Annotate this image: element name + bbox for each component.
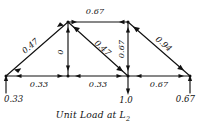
top-chord-arrow-right-icon bbox=[119, 20, 125, 24]
truss-diagram: 0.67 0.47 0 0.47 0.67 0.94 0.33 0.33 0.6… bbox=[0, 0, 198, 124]
bottom-left-label: 0.33 bbox=[30, 79, 49, 89]
right-vertical-arrow-bottom-icon bbox=[126, 66, 130, 72]
bottom-right-label: 0.67 bbox=[150, 79, 169, 89]
node-u2 bbox=[127, 21, 130, 24]
bottom-left-arrow-start-icon bbox=[16, 74, 22, 78]
left-diagonal-line bbox=[6, 22, 68, 76]
left-diagonal-arrow-lower-icon bbox=[14, 68, 21, 73]
bottom-mid-label: 0.33 bbox=[89, 79, 108, 89]
right-diagonal-label: 0.94 bbox=[154, 34, 175, 54]
node-u1 bbox=[67, 21, 70, 24]
figure-caption-text: Unit Load at L bbox=[56, 109, 126, 120]
bottom-mid-arrow-start-icon bbox=[75, 74, 81, 78]
center-vertical-arrow-bottom-icon bbox=[66, 66, 70, 72]
mid-diagonal-label: 0.47 bbox=[93, 38, 114, 58]
truss-diagram-canvas: 0.67 0.47 0 0.47 0.67 0.94 0.33 0.33 0.6… bbox=[0, 0, 198, 124]
figure-caption: Unit Load at L2 bbox=[56, 109, 130, 123]
bottom-right-arrow-end-icon bbox=[179, 74, 185, 78]
right-reaction-label: 0.67 bbox=[176, 94, 196, 104]
right-vertical-arrow-top-icon bbox=[126, 27, 130, 33]
unit-load-label: 1.0 bbox=[119, 95, 133, 105]
center-vertical-label: 0 bbox=[55, 49, 65, 54]
bottom-left-arrow-end-icon bbox=[58, 74, 64, 78]
left-reaction-label: 0.33 bbox=[4, 94, 24, 104]
bottom-mid-arrow-end-icon bbox=[117, 74, 123, 78]
figure-caption-subscript: 2 bbox=[125, 115, 130, 123]
bottom-right-arrow-start-icon bbox=[136, 74, 142, 78]
top-chord-arrow-left-icon bbox=[72, 20, 78, 24]
right-vertical-label: 0.67 bbox=[116, 39, 126, 58]
node-l1 bbox=[67, 75, 70, 78]
center-vertical-arrow-top-icon bbox=[66, 27, 70, 33]
left-diagonal-label: 0.47 bbox=[20, 35, 41, 55]
top-chord-label: 0.67 bbox=[86, 6, 105, 16]
